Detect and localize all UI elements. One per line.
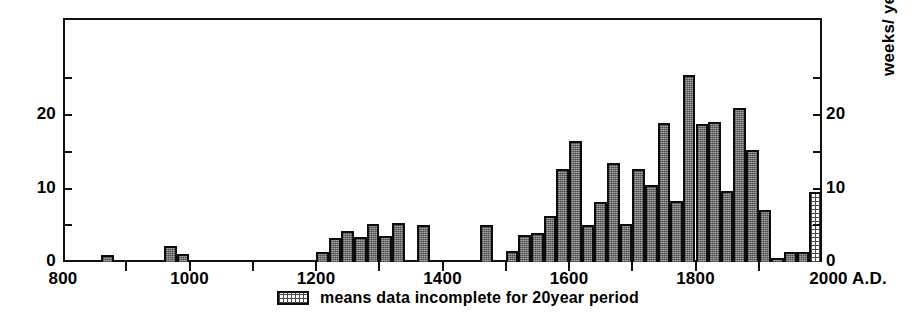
x-axis-tick-label: 1000 xyxy=(125,269,255,289)
right-axis-tick-label: 10 xyxy=(826,178,845,198)
x-axis-tick-label: 1200 xyxy=(251,269,381,289)
legend-label: means data incomplete for 20year period xyxy=(320,289,639,307)
x-axis-tick-label: 1600 xyxy=(504,269,634,289)
right-axis-title: weeks/ year xyxy=(879,0,899,76)
bars-layer xyxy=(63,18,822,262)
left-axis-tick-label: 0 xyxy=(12,251,56,271)
histogram-bar xyxy=(733,108,746,262)
histogram-bar xyxy=(696,124,709,262)
histogram-bar xyxy=(620,224,633,262)
right-axis-tick xyxy=(813,114,822,116)
histogram-bar xyxy=(771,258,784,262)
x-axis-tick-label: 1800 xyxy=(631,269,761,289)
histogram-figure: weeks/ year means data incomplete for 20… xyxy=(0,0,922,326)
histogram-bar xyxy=(569,141,582,262)
histogram-bar xyxy=(341,231,354,262)
x-axis-tick xyxy=(758,262,760,271)
histogram-bar xyxy=(683,75,696,262)
dotted-pattern-swatch xyxy=(277,291,309,305)
x-axis-tick-label: 1400 xyxy=(378,269,508,289)
histogram-bar xyxy=(759,210,772,262)
left-axis-tick-label: 20 xyxy=(12,104,56,124)
histogram-bar xyxy=(379,236,392,262)
histogram-bar xyxy=(784,252,797,262)
right-axis-tick xyxy=(813,224,822,226)
left-axis-tick xyxy=(63,77,72,79)
histogram-bar xyxy=(721,191,734,262)
legend: means data incomplete for 20year period xyxy=(277,289,639,307)
left-axis-tick xyxy=(63,188,72,190)
x-axis-tick-label: 800 xyxy=(0,269,128,289)
right-axis-tick xyxy=(813,188,822,190)
histogram-bar xyxy=(101,255,114,262)
histogram-bar xyxy=(594,202,607,262)
histogram-bar xyxy=(367,224,380,262)
right-axis-tick-label: 20 xyxy=(826,104,845,124)
left-axis-tick xyxy=(63,151,72,153)
histogram-bar xyxy=(544,216,557,262)
histogram-bar xyxy=(518,235,531,262)
histogram-bar xyxy=(708,122,721,262)
left-axis-tick-label: 10 xyxy=(12,178,56,198)
histogram-bar xyxy=(392,223,405,262)
histogram-bar xyxy=(316,252,329,262)
right-axis-tick-label: 0 xyxy=(826,251,836,271)
histogram-bar xyxy=(531,233,544,262)
histogram-bar xyxy=(582,225,595,262)
histogram-bar xyxy=(645,185,658,262)
histogram-bar xyxy=(417,225,430,262)
histogram-bar xyxy=(797,252,810,262)
histogram-bar xyxy=(177,254,190,262)
histogram-bar xyxy=(607,163,620,262)
left-axis-tick xyxy=(63,224,72,226)
histogram-bar xyxy=(556,169,569,262)
histogram-bar xyxy=(164,246,177,262)
x-axis-tick-label: 2000 A.D. xyxy=(783,269,913,289)
left-axis-tick xyxy=(63,114,72,116)
histogram-bar xyxy=(746,150,759,262)
histogram-bar xyxy=(809,192,822,262)
histogram-bar xyxy=(670,201,683,262)
histogram-bar xyxy=(480,225,493,262)
histogram-bar xyxy=(329,238,342,262)
right-axis-tick xyxy=(813,77,822,79)
histogram-bar xyxy=(354,237,367,262)
histogram-bar xyxy=(506,251,519,262)
right-axis-tick xyxy=(813,151,822,153)
histogram-bar xyxy=(658,123,671,262)
histogram-bar xyxy=(632,169,645,262)
